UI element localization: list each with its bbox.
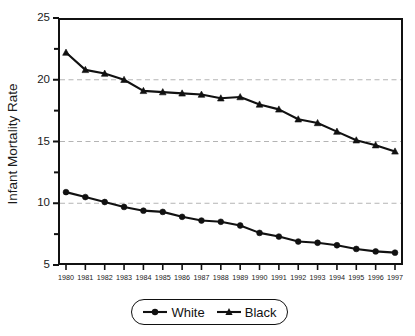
y-axis-ticks: [53, 18, 59, 265]
chart-legend: WhiteBlack: [131, 299, 288, 325]
legend-circle-marker-icon: [142, 305, 168, 319]
plot-overlay: [0, 0, 415, 336]
legend-item-white[interactable]: White: [142, 305, 204, 319]
legend-item-black[interactable]: Black: [216, 305, 277, 319]
infant-mortality-rate-chart: Infant Mortality Rate 510152025 19801981…: [0, 0, 415, 336]
legend-label: White: [171, 306, 204, 319]
legend-label: Black: [245, 306, 277, 319]
x-axis-ticks: [66, 264, 395, 270]
legend-triangle-marker-icon: [216, 305, 242, 319]
